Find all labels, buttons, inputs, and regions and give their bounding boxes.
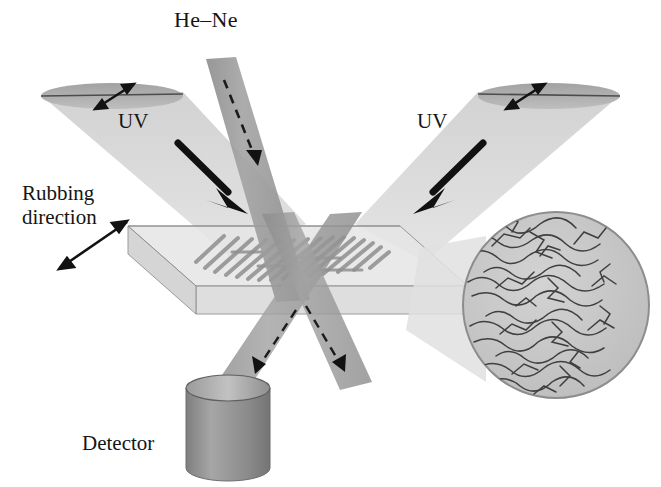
magnified-polymer-inset — [463, 212, 649, 398]
label-rubbing-direction: Rubbing direction — [22, 182, 97, 229]
diagram-svg — [0, 0, 661, 487]
detector-cylinder — [186, 375, 270, 481]
label-uv-left: UV — [118, 110, 148, 134]
label-detector: Detector — [82, 432, 154, 456]
label-he-ne: He–Ne — [174, 8, 238, 33]
label-uv-right: UV — [417, 110, 447, 134]
figure-canvas: He–Ne UV UV Rubbing direction Detector — [0, 0, 661, 487]
